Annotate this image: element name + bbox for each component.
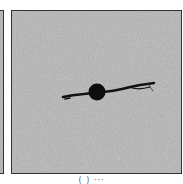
speckle-texture	[0, 11, 4, 174]
pore-blob	[89, 84, 106, 101]
micrograph-image	[12, 11, 182, 174]
figure-caption: ( ) ···	[0, 176, 183, 184]
left-figure-panel	[0, 10, 4, 174]
main-figure-panel	[11, 10, 182, 174]
